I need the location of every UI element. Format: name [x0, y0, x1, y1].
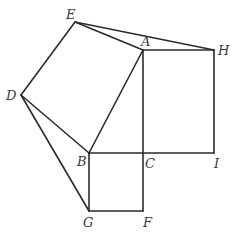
vertex-label-A: A — [140, 34, 150, 49]
vertex-label-B: B — [76, 154, 87, 169]
vertex-label-G: G — [83, 215, 93, 230]
vertex-label-D: D — [5, 88, 17, 103]
segment-DE — [21, 22, 75, 95]
segment-EA — [75, 22, 143, 50]
vertex-label-E: E — [65, 7, 76, 22]
diagram-labels: EDAHBCIGF — [5, 7, 230, 230]
vertex-label-C: C — [145, 156, 155, 171]
vertex-label-H: H — [217, 43, 230, 58]
vertex-label-F: F — [142, 215, 153, 230]
diagram-segments — [21, 22, 214, 211]
segment-AB — [89, 50, 143, 153]
segment-DG — [21, 95, 89, 211]
segment-BD — [21, 95, 89, 153]
pythagorean-diagram: EDAHBCIGF — [0, 0, 235, 238]
vertex-label-I: I — [213, 156, 220, 171]
